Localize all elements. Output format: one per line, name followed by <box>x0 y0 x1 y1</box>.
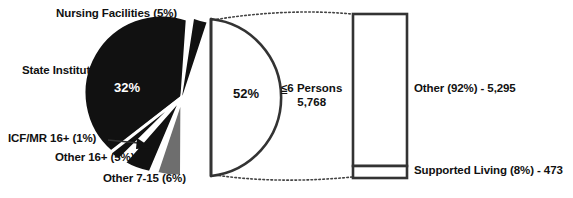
bar-label-other: Other (92%) - 5,295 <box>414 82 516 95</box>
slice-value-52: 52% <box>233 86 259 101</box>
label-nursing-facilities: Nursing Facilities (5%) <box>56 7 177 20</box>
connector-dotted-top <box>213 12 352 20</box>
slice-value-32: 32% <box>114 80 140 95</box>
callout-6-persons-line1: ≤6 Persons <box>281 82 342 96</box>
label-state-institutions: State Institutions <box>22 64 113 77</box>
label-other-16plus: Other 16+ (5%) <box>55 151 134 164</box>
chart-canvas: Nursing Facilities (5%) State Institutio… <box>0 0 573 198</box>
bar-label-supported-living: Supported Living (8%) - 473 <box>414 164 563 177</box>
connector-dotted-bottom <box>215 175 352 180</box>
callout-6-persons-text: 6 Persons <box>287 82 342 94</box>
callout-6-persons: ≤6 Persons 5,768 <box>281 82 342 109</box>
bar-segment-supported-living <box>353 166 407 178</box>
bar-segment-other <box>353 14 407 166</box>
breakout-bar <box>353 14 407 178</box>
callout-6-persons-count: 5,768 <box>281 96 342 110</box>
label-icfmr-16plus: ICF/MR 16+ (1%) <box>8 132 96 145</box>
label-other-7-15: Other 7-15 (6%) <box>103 172 186 185</box>
